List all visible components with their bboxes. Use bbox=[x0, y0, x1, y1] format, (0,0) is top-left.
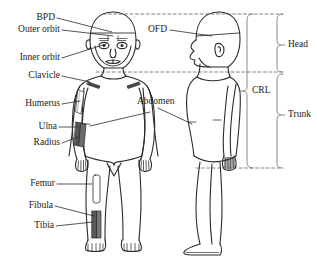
profile-infant-figure bbox=[184, 12, 241, 255]
label-ulna: Ulna bbox=[0, 122, 57, 132]
label-trunk: Trunk bbox=[288, 110, 311, 120]
label-head: Head bbox=[288, 40, 308, 50]
label-inner-orbit: Inner orbit bbox=[0, 53, 60, 63]
label-tibia: Tibia bbox=[0, 221, 54, 231]
label-fibula: Fibula bbox=[0, 201, 53, 211]
diagram-canvas: BPD Outer orbit Inner orbit Clavicle Hum… bbox=[0, 0, 317, 258]
label-abdomen: Abdomen bbox=[137, 97, 174, 107]
label-crl: CRL bbox=[252, 86, 270, 96]
label-femur: Femur bbox=[0, 179, 55, 189]
label-ofd: OFD bbox=[148, 25, 167, 35]
label-bpd: BPD bbox=[0, 13, 55, 23]
label-outer-orbit: Outer orbit bbox=[0, 25, 60, 35]
frontal-infant-figure bbox=[69, 12, 158, 252]
label-clavicle: Clavicle bbox=[0, 71, 60, 81]
label-humerus: Humerus bbox=[0, 99, 60, 109]
leader-lines bbox=[55, 18, 212, 226]
label-radius: Radius bbox=[0, 138, 60, 148]
